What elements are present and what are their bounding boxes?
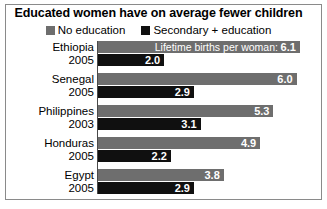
legend-item-no-education: No education [46,24,126,36]
chart-legend: No education Secondary + education [0,24,317,36]
row-label-philippines: Philippines 2003 [8,105,94,131]
bar-no-education-honduras: 4.9 [98,137,260,149]
bar-value-secondary-education-honduras: 2.2 [152,151,167,162]
bar-no-education-senegal: 6.0 [98,73,297,85]
chart-row-ethiopia: Ethiopia 2005 Lifetime births per woman:… [5,41,312,67]
bar-annotation-lifetime-births: Lifetime births per woman: [155,42,278,53]
row-country-name: Senegal [8,73,94,86]
row-label-senegal: Senegal 2005 [8,73,94,99]
bar-value-no-education-honduras: 4.9 [241,138,256,149]
row-label-honduras: Honduras 2005 [8,137,94,163]
legend-item-secondary-education: Secondary + education [141,24,271,36]
row-country-name: Philippines [8,105,94,118]
bar-value-no-education-egypt: 3.8 [204,170,219,181]
bar-value-secondary-education-ethiopia: 2.0 [145,55,160,66]
chart-row-philippines: Philippines 2003 5.3 3.1 [5,105,312,131]
row-year: 2005 [8,150,94,163]
row-label-egypt: Egypt 2005 [8,169,94,195]
row-year: 2005 [8,182,94,195]
legend-label-secondary-education: Secondary + education [153,24,271,36]
bar-secondary-education-senegal: 2.9 [98,86,194,98]
chart-row-honduras: Honduras 2005 4.9 2.2 [5,137,312,163]
gray-square-icon [46,26,55,35]
bar-secondary-education-egypt: 2.9 [98,182,194,194]
legend-label-no-education: No education [58,24,126,36]
bar-secondary-education-philippines: 3.1 [98,118,201,130]
chart-title: Educated women have on average fewer chi… [0,6,317,20]
bar-value-no-education-ethiopia: 6.1 [281,42,296,53]
row-country-name: Egypt [8,169,94,182]
row-year: 2005 [8,54,94,67]
row-label-ethiopia: Ethiopia 2005 [8,41,94,67]
bar-value-secondary-education-philippines: 3.1 [181,119,196,130]
bar-value-secondary-education-egypt: 2.9 [175,183,190,194]
bar-no-education-ethiopia: Lifetime births per woman: 6.1 [98,41,300,53]
bar-value-no-education-philippines: 5.3 [254,106,269,117]
bar-secondary-education-ethiopia: 2.0 [98,54,164,66]
bar-value-no-education-senegal: 6.0 [277,74,292,85]
row-country-name: Honduras [8,137,94,150]
black-square-icon [141,26,150,35]
chart-figure: Educated women have on average fewer chi… [0,0,327,209]
chart-row-senegal: Senegal 2005 6.0 2.9 [5,73,312,99]
bar-secondary-education-honduras: 2.2 [98,150,171,162]
chart-row-egypt: Egypt 2005 3.8 2.9 [5,169,312,195]
row-year: 2005 [8,86,94,99]
bar-value-secondary-education-senegal: 2.9 [175,87,190,98]
row-year: 2003 [8,118,94,131]
bar-no-education-egypt: 3.8 [98,169,224,181]
bar-no-education-philippines: 5.3 [98,105,273,117]
chart-plot-area: Ethiopia 2005 Lifetime births per woman:… [5,41,312,198]
row-country-name: Ethiopia [8,41,94,54]
